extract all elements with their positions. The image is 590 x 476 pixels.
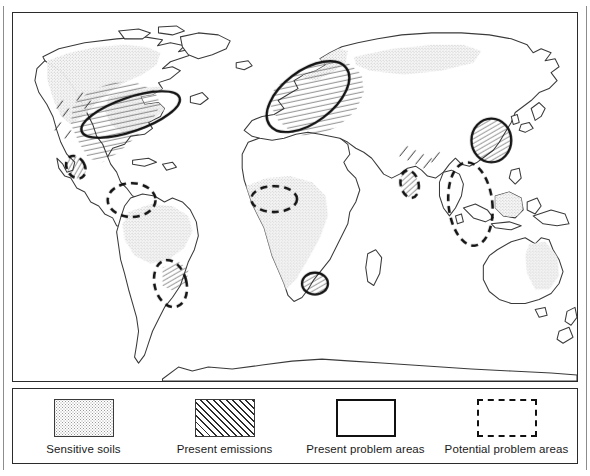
legend-label-sensitive-soils: Sensitive soils [46, 443, 120, 456]
present-problem-areas-swatch [336, 399, 396, 437]
landmass-tasmania [535, 307, 547, 317]
legend-item-present-problem-areas: Present problem areas [295, 389, 436, 463]
landmass-caribbean-isles [162, 162, 176, 170]
landmass-japan-south [519, 122, 533, 132]
legend-label-present-emissions: Present emissions [177, 443, 273, 456]
legend-item-sensitive-soils: Sensitive soils [13, 389, 154, 463]
landmass-madagascar [366, 250, 382, 286]
landmass-new-zealand [565, 307, 577, 325]
landmass-philippines [509, 168, 521, 184]
legend-panel: Sensitive soils Present emissions Presen… [12, 388, 578, 464]
legend-row: Sensitive soils Present emissions Presen… [13, 389, 577, 463]
landmass-new-zealand-south [557, 327, 573, 343]
landmass-sumatra [463, 204, 493, 222]
landmass-korea [511, 114, 519, 124]
map-panel [12, 12, 578, 382]
page-rule-left [3, 6, 4, 470]
potential-problem-areas-swatch [477, 399, 537, 437]
legend-item-present-emissions: Present emissions [154, 389, 295, 463]
figure-root: Sensitive soils Present emissions Presen… [0, 0, 590, 476]
landmass-arctic-islands-2 [158, 26, 184, 35]
legend-label-present-problem-areas: Present problem areas [306, 443, 424, 456]
present-emissions-swatch [195, 399, 255, 437]
sensitive-soils-swatch [54, 399, 114, 437]
landmass-iceland [236, 61, 252, 70]
landmass-sulawesi [527, 198, 541, 214]
landmass-cuba [133, 158, 157, 166]
landmass-sri-lanka [455, 214, 463, 224]
landmass-new-guinea [533, 210, 569, 226]
present-problem-area-south-africa [302, 273, 328, 295]
landmass-japan [531, 103, 545, 121]
potential-problem-area-persian-gulf [398, 169, 421, 200]
legend-label-potential-problem-areas: Potential problem areas [445, 443, 569, 456]
legend-item-potential-problem-areas: Potential problem areas [436, 389, 577, 463]
landmass-antarctica [162, 359, 577, 381]
landmass-newfoundland [190, 93, 208, 105]
world-map [13, 13, 577, 381]
page-rule-right [586, 6, 587, 470]
present-problem-area-eastern-china [471, 118, 511, 162]
landmass-java [491, 222, 521, 230]
landmass-greenland [180, 33, 230, 59]
